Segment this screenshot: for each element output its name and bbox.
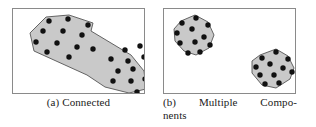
data-point — [201, 34, 206, 39]
panel-a-plot-box — [12, 8, 145, 94]
panel-b-caption: (b) Multiple Compo- nents — [163, 96, 297, 122]
data-point — [257, 72, 262, 77]
data-point — [193, 15, 198, 20]
data-point — [122, 47, 127, 52]
data-point — [110, 78, 115, 83]
panel-a-caption-text: (a) Connected — [12, 96, 145, 109]
data-point — [33, 39, 38, 44]
data-point — [128, 78, 133, 83]
data-point — [79, 32, 84, 37]
data-point — [197, 49, 202, 54]
data-point — [280, 65, 285, 70]
data-point — [289, 69, 294, 74]
data-point — [74, 44, 79, 49]
data-point — [189, 26, 194, 31]
data-point — [46, 18, 51, 23]
data-point — [65, 16, 70, 21]
data-point — [66, 54, 71, 59]
data-point — [253, 64, 258, 69]
data-point — [205, 22, 210, 27]
data-point — [285, 56, 290, 61]
data-point — [108, 56, 113, 61]
data-point — [125, 58, 130, 63]
data-point — [276, 80, 281, 85]
data-point — [85, 22, 90, 27]
data-point — [54, 40, 59, 45]
panel-a-caption: (a) Connected — [12, 96, 145, 109]
panel-b-caption-line-1: (b) Multiple Compo- — [163, 96, 297, 109]
data-point — [40, 28, 45, 33]
data-point — [207, 42, 212, 47]
region-polygon — [252, 49, 294, 88]
data-point — [262, 81, 267, 86]
figure-container: (a) Connected (b) Multiple Compo- nents — [0, 0, 316, 127]
panel-b-caption-line-2: nents — [163, 109, 297, 122]
data-point — [179, 20, 184, 25]
panel-b-caption-word: Compo- — [260, 96, 297, 108]
data-point — [130, 66, 135, 71]
data-point — [192, 39, 197, 44]
panel-a-region-graphic — [13, 9, 144, 93]
data-point — [44, 49, 49, 54]
panel-b-caption-word: Multiple — [199, 96, 238, 108]
data-point — [137, 43, 142, 48]
data-point — [141, 54, 144, 59]
data-point — [60, 28, 65, 33]
panel-b-plot-box — [163, 8, 296, 94]
data-point — [271, 72, 276, 77]
region-polygon — [174, 15, 214, 55]
data-point — [115, 68, 120, 73]
data-point — [267, 61, 272, 66]
panel-b-caption-word: (b) — [163, 96, 176, 108]
data-point — [259, 55, 264, 60]
data-point — [273, 49, 278, 54]
panel-b-region-graphic — [164, 9, 295, 93]
data-point — [90, 46, 95, 51]
data-point — [185, 50, 190, 55]
data-point — [174, 30, 179, 35]
data-point — [177, 40, 182, 45]
